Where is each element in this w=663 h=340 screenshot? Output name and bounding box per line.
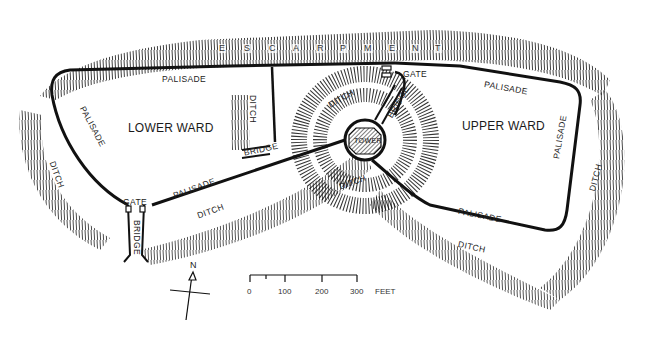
- castle-plan-map: E S C A R P M E N T LOWER WARD UPPER WAR…: [0, 0, 663, 340]
- escarpment-letter: E: [388, 44, 396, 53]
- bridge-label: BRIDGE: [133, 220, 142, 255]
- gate-label: GATE: [403, 70, 427, 79]
- lower-ward-label: LOWER WARD: [128, 122, 214, 134]
- escarpment-letter: A: [292, 44, 300, 53]
- scale-tick-label: 200: [315, 288, 328, 296]
- escarpment-letter: S: [243, 44, 251, 53]
- palisade-label: PALISADE: [162, 75, 206, 84]
- map-drawing: [0, 0, 663, 340]
- ditch-label: DITCH: [249, 95, 258, 123]
- escarpment-hachures: [19, 30, 624, 310]
- scale-unit-label: FEET: [375, 288, 395, 296]
- scale-tick-label: 0: [247, 288, 251, 296]
- scale-tick-label: 300: [350, 288, 363, 296]
- upper-ward-label: UPPER WARD: [462, 120, 545, 132]
- north-label: N: [190, 261, 197, 270]
- escarpment-letter: C: [268, 44, 277, 53]
- escarpment-letter: P: [339, 44, 347, 53]
- escarpment-letter: E: [218, 44, 226, 53]
- escarpment-letter: T: [434, 44, 442, 53]
- gate-label: GATE: [123, 198, 147, 207]
- scale-bar: [250, 275, 357, 282]
- escarpment-letter: M: [363, 44, 373, 53]
- north-arrow-icon: [170, 272, 210, 320]
- escarpment-letter: N: [411, 44, 420, 53]
- scale-tick-label: 100: [278, 288, 291, 296]
- escarpment-letter: R: [316, 44, 325, 53]
- tower-label: TOWER: [354, 137, 382, 144]
